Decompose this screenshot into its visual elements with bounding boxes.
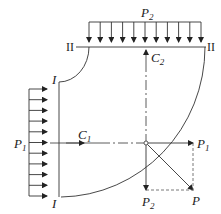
label-P1-left: P1 — [14, 137, 26, 153]
left-distributed-load — [29, 89, 47, 196]
label-P-resultant: P — [192, 194, 200, 207]
diagram-svg — [0, 0, 221, 214]
label-P1-right: P1 — [197, 137, 209, 153]
force-decomposition — [144, 141, 193, 190]
outer-bend-arc — [61, 47, 205, 197]
label-section-II-left: II — [66, 41, 74, 53]
label-section-II-right: II — [207, 41, 215, 53]
inner-bend-arc — [59, 47, 89, 82]
label-P2-top: P2 — [141, 6, 153, 22]
label-P2-bottom: P2 — [142, 195, 154, 211]
label-section-I-bottom: I — [52, 197, 56, 210]
label-C2: C2 — [151, 51, 164, 67]
top-distributed-load — [89, 22, 201, 42]
label-section-I-top: I — [52, 73, 56, 86]
diagram-canvas: P2 II II C2 I I C1 P1 P1 P2 P — [0, 0, 221, 214]
label-C1: C1 — [78, 128, 91, 144]
